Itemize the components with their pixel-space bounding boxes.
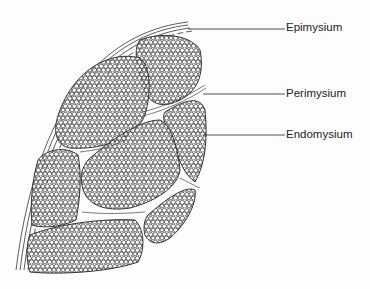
fascicles [27,35,206,273]
label-epimysium: Epimysium [286,22,342,34]
muscle-cross-section-diagram [0,0,370,289]
label-endomysium: Endomysium [286,129,352,141]
fascicle-left [31,150,80,227]
label-perimysium: Perimysium [286,88,346,100]
fascicle-bottom [27,220,143,273]
